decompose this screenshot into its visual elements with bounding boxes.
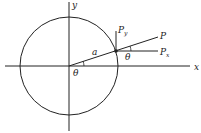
contact-point <box>114 49 118 53</box>
angle-arc-center <box>83 61 84 66</box>
radius-label: a <box>92 47 97 57</box>
y-axis-label: y <box>71 0 78 10</box>
point-p-label: P <box>159 31 167 41</box>
x-axis-label: x <box>194 62 199 72</box>
circle-force-diagram: x y a P Px Py θ θ <box>0 0 201 133</box>
px-label: Px <box>159 47 170 58</box>
angle-arc-point <box>130 46 131 51</box>
theta-center-label: θ <box>73 68 79 78</box>
diagram-canvas: x y a P Px Py θ θ <box>0 0 201 133</box>
theta-point-label: θ <box>125 52 131 62</box>
py-label: Py <box>117 25 128 37</box>
